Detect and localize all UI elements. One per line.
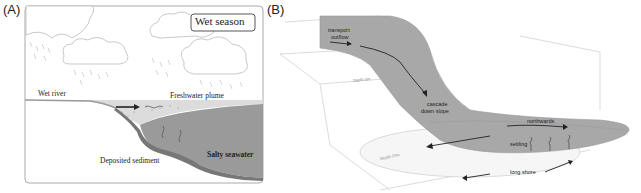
salty-seawater-label: Salty seawater: [207, 150, 253, 159]
cascade-label: cascade: [427, 101, 448, 107]
deposited-sediment-label: Deposited sediment: [100, 156, 159, 165]
wet-river-label: Wet river: [38, 89, 66, 98]
diagram-canvas: [0, 0, 641, 193]
transport-label: transport: [328, 27, 350, 33]
down-slope-label: down slope: [421, 108, 449, 114]
wet-season-title: Wet season: [195, 15, 245, 27]
settling-label: settling: [510, 141, 527, 147]
outflow-label: outflow: [331, 34, 348, 40]
freshwater-plume-label: Freshwater plume: [170, 91, 224, 100]
panel-b: [280, 16, 629, 190]
flow-band: [320, 16, 629, 153]
long-shore-label: long shore: [510, 169, 536, 175]
northwards-label: northwards: [527, 118, 554, 124]
